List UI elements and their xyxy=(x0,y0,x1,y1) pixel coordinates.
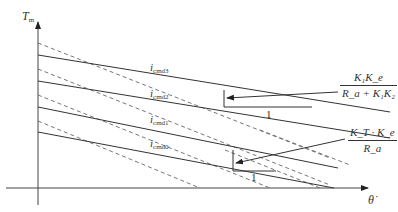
line-icmd2 xyxy=(38,81,390,138)
label-icmd1: icmd1 xyxy=(150,114,169,127)
curve-subscript: cmd1 xyxy=(153,119,169,127)
diagram-canvas xyxy=(0,0,398,212)
slope-triangle-lower xyxy=(233,150,276,171)
y-axis-label: Tm xyxy=(22,10,34,24)
formula-denominator: R_a + K₁K₂ xyxy=(340,88,397,99)
curve-subscript: cmd0 xyxy=(153,143,169,151)
fraction-bar xyxy=(340,85,397,86)
solid-lines xyxy=(38,55,390,188)
curve-subscript: cmd2 xyxy=(153,93,169,101)
slope-formula-upper: K₁K_e R_a + K₁K₂ xyxy=(340,72,397,99)
formula-numerator: K_T · K_e xyxy=(348,127,397,138)
fraction-bar xyxy=(348,140,397,141)
y-axis-subscript: m xyxy=(29,16,34,24)
line-icmd3 xyxy=(38,55,390,112)
x-axis-label: θ̇ xyxy=(368,194,374,206)
run-label-lower: 1 xyxy=(251,172,257,183)
dashed-lines xyxy=(38,43,350,188)
y-axis-symbol: T xyxy=(22,9,29,23)
curve-subscript: cmd3 xyxy=(153,67,169,75)
run-label-upper: 1 xyxy=(266,109,272,120)
line-icmd1 xyxy=(38,107,338,168)
label-icmd2: icmd2 xyxy=(150,88,169,101)
line-icmd0 xyxy=(38,132,334,188)
slope-formula-lower: K_T · K_e R_a xyxy=(348,127,397,154)
formula-numerator: K₁K_e xyxy=(340,72,397,83)
label-icmd3: icmd3 xyxy=(150,62,169,75)
torque-speed-diagram: Tm θ̇ icmd3 icmd2 icmd1 icmd0 1 1 K₁K_e … xyxy=(0,0,398,212)
formula-denominator: R_a xyxy=(348,143,397,154)
arrow-upper xyxy=(227,92,338,98)
label-icmd0: icmd0 xyxy=(150,138,169,151)
